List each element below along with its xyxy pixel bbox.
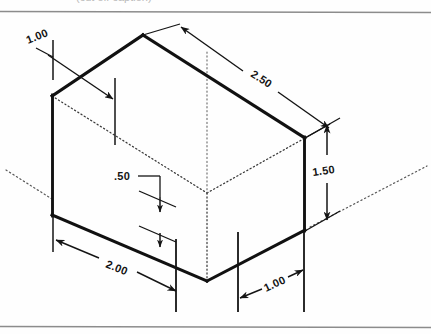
dimension-label-width-bottom-left: 2.00 (104, 258, 129, 278)
dimension-height-right: 1.50 (305, 118, 340, 231)
dimension-label-length-top-right: 2.50 (249, 68, 274, 90)
dimension-label-width-bottom-right: 1.00 (262, 273, 288, 293)
dimension-height-mid: .50 (114, 170, 176, 247)
dimension-label-height-right: 1.50 (312, 163, 336, 178)
dimension-label-height-mid: .50 (114, 170, 130, 182)
dimension-label-depth-top-left: 1.00 (24, 26, 49, 46)
dimension-width-bottom-right: 1.00 (238, 232, 304, 312)
ground-axis-lines (6, 166, 427, 227)
hidden-edges (52, 96, 305, 281)
object-visible-edges (52, 35, 305, 281)
dimension-length-top-right: 2.50 (143, 24, 330, 138)
frame-rules (0, 12, 431, 328)
isometric-drawing-svg: 1.00 2.50 1.50 (0, 0, 431, 334)
dimension-width-bottom-left: 2.00 (53, 216, 176, 312)
drawing-canvas: (cut off caption) (0, 0, 431, 334)
